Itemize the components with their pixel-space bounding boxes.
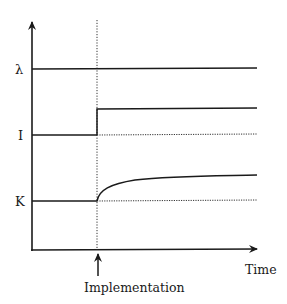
x-axis: [31, 249, 257, 250]
I-step-line: [97, 108, 257, 135]
K-baseline-dotted: [97, 200, 257, 201]
label-I: I: [18, 128, 23, 143]
label-lambda: λ: [15, 62, 23, 77]
time-label: Time: [245, 262, 277, 277]
diagram-canvas: λ I K Implementation Time: [0, 0, 287, 304]
lambda-line: [32, 68, 257, 69]
K-growth-curve: [97, 175, 257, 201]
I-baseline-dotted: [97, 134, 257, 135]
label-K: K: [15, 194, 25, 209]
implementation-label: Implementation: [84, 280, 185, 295]
